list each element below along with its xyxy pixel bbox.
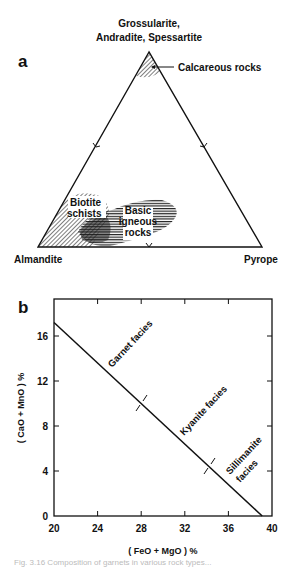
x-tick-36: 36: [223, 523, 235, 534]
y-tick-12: 12: [37, 376, 49, 387]
x-axis-label: ( FeO + MgO ) %: [128, 546, 197, 556]
kyanite-facies-label: Kyanite facies: [177, 383, 229, 437]
y-tick-labels: 0 4 8 12 16: [37, 331, 49, 522]
figure-caption: Fig. 3.16 Composition of garnets in vari…: [14, 558, 284, 567]
y-tick-0: 0: [42, 511, 48, 522]
panel-b-letter: b: [18, 298, 28, 317]
composition-trend-line: [54, 323, 262, 517]
x-tick-40: 40: [266, 523, 278, 534]
biotite-label-line2: schists: [67, 208, 102, 219]
pyrope-label: Pyrope: [244, 254, 278, 265]
x-tick-20: 20: [48, 523, 60, 534]
y-tick-8: 8: [42, 421, 48, 432]
x-tick-32: 32: [179, 523, 191, 534]
basic-label-line1: Basic: [125, 205, 152, 216]
x-tick-labels: 20 24 28 32 36 40: [48, 523, 278, 534]
x-tick-28: 28: [136, 523, 148, 534]
garnet-facies-label: Garnet facies: [105, 318, 154, 370]
biotite-label-line1: Biotite: [70, 197, 102, 208]
y-axis-label: ( CaO + MnO ) %: [16, 373, 26, 443]
basic-label-line2: igneous: [119, 216, 158, 227]
almandite-label: Almandite: [14, 254, 63, 265]
y-tick-16: 16: [37, 331, 49, 342]
panel-a-letter: a: [18, 52, 28, 71]
figure-canvas: a Grossularite, Andradite, Spessartite C…: [0, 0, 292, 570]
y-tick-4: 4: [42, 466, 48, 477]
panel-a: a Grossularite, Andradite, Spessartite C…: [14, 18, 278, 265]
x-tick-24: 24: [92, 523, 104, 534]
basic-label-line3: rocks: [125, 227, 152, 238]
calcareous-rocks-label: Calcareous rocks: [178, 62, 262, 73]
apex-label-line2: Andradite, Spessartite: [96, 32, 203, 43]
apex-label-line1: Grossularite,: [118, 18, 180, 29]
panel-b: b 20 24 28 32 36 40 0 4 8 12: [16, 298, 278, 556]
